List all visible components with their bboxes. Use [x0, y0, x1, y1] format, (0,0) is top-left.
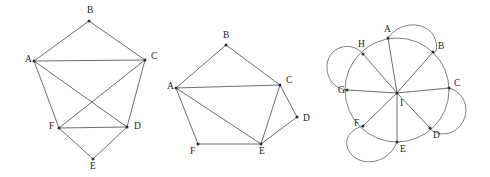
vertex-label-b: B [438, 41, 444, 51]
edge-i-c [397, 88, 449, 93]
edge-a-b [176, 45, 226, 88]
vertex-label-f: F [354, 118, 359, 128]
edge-b-c [226, 45, 280, 85]
vertex-label-a: A [167, 81, 174, 91]
vertex-d [429, 127, 432, 130]
loop-c-d [430, 88, 466, 134]
vertex-label-a: A [25, 54, 32, 64]
vertex-h [362, 53, 365, 56]
edge-a-c [34, 60, 145, 61]
middle-graph: ABCDEF [167, 30, 310, 156]
vertex-c [279, 84, 282, 87]
edge-c-e [261, 85, 280, 144]
left-graph-edges [34, 21, 145, 159]
edge-d-e [93, 127, 127, 159]
loop-e-f [347, 126, 397, 162]
vertex-d [296, 116, 299, 119]
vertex-f [197, 143, 200, 146]
edge-a-d [34, 61, 127, 127]
vertex-label-e: E [259, 146, 265, 156]
edge-c-d [127, 60, 145, 127]
vertex-label-g: G [338, 85, 345, 95]
vertex-c [144, 59, 147, 62]
vertex-a [387, 37, 390, 40]
vertex-e [396, 141, 399, 144]
vertex-label-b: B [87, 5, 93, 15]
vertex-a [175, 87, 178, 90]
vertex-label-f: F [49, 121, 54, 131]
edge-a-f [176, 88, 198, 144]
graph-diagram-svg: ABCDEF ABCDEF ABCDEFGHI [0, 0, 490, 177]
edge-i-g [347, 90, 397, 93]
figure-canvas: ABCDEF ABCDEF ABCDEFGHI [0, 0, 490, 177]
vertex-label-b: B [223, 30, 229, 40]
edge-a-e [176, 88, 261, 144]
left-graph: ABCDEF [25, 5, 157, 171]
vertex-label-d: D [433, 130, 440, 140]
vertex-label-c: C [151, 51, 157, 61]
edge-c-f [59, 60, 145, 128]
edge-a-f [34, 61, 59, 128]
vertex-e [260, 143, 263, 146]
right-graph-labels: ABCDEFGHI [338, 24, 460, 154]
loop-a-b [388, 25, 437, 53]
vertex-f [58, 127, 61, 130]
vertex-label-a: A [384, 24, 391, 34]
vertex-label-d: D [134, 121, 141, 131]
vertex-label-f: F [190, 146, 195, 156]
vertex-b [88, 20, 91, 23]
middle-graph-labels: ABCDEF [167, 30, 310, 156]
vertex-i [396, 92, 399, 95]
edge-b-c [89, 21, 145, 60]
loop-g-h [327, 46, 363, 90]
vertex-g [346, 89, 349, 92]
right-graph: ABCDEFGHI [327, 24, 466, 162]
vertex-e [92, 158, 95, 161]
vertex-d [126, 126, 129, 129]
vertex-b [432, 51, 435, 54]
vertex-label-c: C [454, 78, 460, 88]
vertex-c [448, 87, 451, 90]
edge-a-b [34, 21, 89, 61]
vertex-label-c: C [286, 75, 292, 85]
edge-c-d [280, 85, 297, 117]
middle-graph-edges [176, 45, 297, 144]
vertex-label-e: E [400, 144, 406, 154]
edge-d-e [261, 117, 297, 144]
vertex-b [225, 44, 228, 47]
edge-f-e [59, 128, 93, 159]
vertex-f [362, 125, 365, 128]
edge-i-b [397, 52, 433, 93]
vertex-a [33, 60, 36, 63]
edge-f-d [59, 127, 127, 128]
left-graph-vertices [33, 20, 147, 161]
vertex-label-e: E [90, 161, 96, 171]
vertex-label-h: H [358, 39, 365, 49]
edge-a-c [176, 85, 280, 88]
vertex-label-d: D [303, 113, 310, 123]
vertex-label-i: I [400, 98, 403, 108]
edge-i-f [363, 93, 397, 126]
